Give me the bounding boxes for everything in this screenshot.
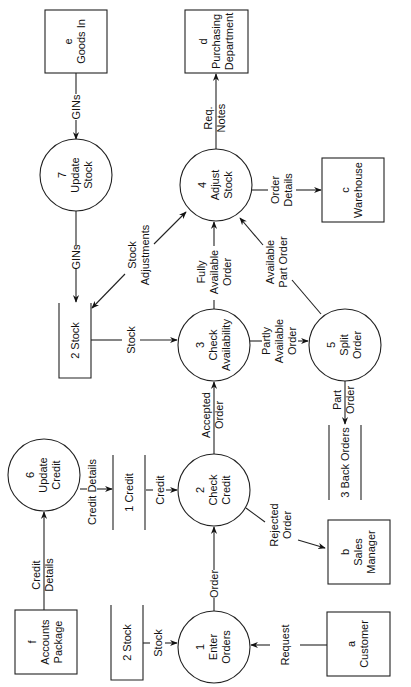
entity-name: Goods In [75, 19, 87, 64]
process-split-order: 5 Split Order [309, 309, 381, 381]
process-name: Check [207, 474, 219, 506]
entity-name: Warehouse [352, 162, 364, 218]
datastore-label: 1 Credit [123, 473, 135, 512]
flow-credit-details-accounts: Credit Details [30, 512, 55, 610]
entity-goods-in: e Goods In [45, 10, 107, 73]
flow-label: GINs [70, 244, 82, 270]
process-number: 7 [56, 172, 68, 178]
flow-gins-in: GINs [70, 73, 82, 139]
flow-label: Fully [195, 260, 207, 284]
entity-customer: a Customer [327, 612, 390, 676]
flow-request: Request [251, 625, 327, 666]
process-name: Order [351, 331, 363, 359]
flow-label: Stock [152, 629, 164, 657]
flow-label: Available [208, 250, 220, 294]
flow-accepted-order: Accepted Order [200, 382, 225, 454]
flow-gins-store: GINs [70, 211, 82, 302]
entity-accounts-package: f Accounts Package [15, 610, 77, 674]
process-number: 1 [194, 644, 206, 650]
process-update-credit: 6 Update Credit [8, 439, 80, 511]
flow-label: Req. [202, 106, 214, 129]
flow-order-details: Order Details [252, 173, 321, 207]
process-number: 5 [325, 342, 337, 348]
datastore-stock-bottom: 2 Stock [111, 605, 143, 680]
entity-letter: c [339, 187, 351, 193]
flow-label: Order [281, 511, 293, 539]
datastore-back-orders: 3 Back Orders [329, 425, 361, 500]
flow-label: Order [221, 258, 233, 286]
process-check-availability: 3 Check Availability [178, 309, 250, 381]
entity-name: Manager [365, 530, 377, 574]
flow-label: Order [208, 570, 220, 598]
flow-label: Request [279, 625, 291, 666]
entity-name: Accounts [39, 619, 51, 665]
flow-stock-to-enter: Stock [143, 629, 177, 657]
flow-label: Order [213, 401, 225, 429]
entity-name: Sales [352, 538, 364, 566]
entity-name: Purchasing [210, 14, 222, 69]
process-name: Orders [220, 630, 232, 664]
flow-partly-available-order: Partly Available Order [250, 319, 308, 363]
flow-label: Order [344, 386, 356, 414]
process-enter-orders: 1 Enter Orders [178, 611, 250, 683]
process-name: Update [37, 457, 49, 492]
flow-label: Order [269, 176, 281, 204]
process-name: Adjust [209, 170, 221, 201]
datastore-label: 3 Back Orders [339, 427, 351, 498]
process-number: 4 [196, 182, 208, 188]
flow-label: Accepted [200, 392, 212, 438]
flow-label: Rejected [268, 503, 280, 546]
flow-label: Available [264, 240, 276, 284]
entity-purchasing-department: d Purchasing Department [185, 10, 248, 73]
flow-available-part-order: Available Part Order [240, 218, 321, 314]
flow-stock-to-check: Stock [91, 326, 177, 354]
flow-label: Partly [260, 326, 272, 355]
entity-warehouse: c Warehouse [322, 158, 384, 222]
entity-letter: d [197, 38, 209, 44]
process-number: 6 [24, 472, 36, 478]
flow-label: Available [273, 319, 285, 363]
flow-label: Details [282, 173, 294, 207]
flow-label: Part [331, 390, 343, 410]
flow-label: Order [286, 327, 298, 355]
process-name: Credit [50, 460, 62, 489]
entity-letter: b [339, 549, 351, 555]
process-name: Check [207, 329, 219, 361]
flow-label: Stock [125, 326, 137, 354]
flow-rejected-order: Rejected Order [246, 503, 325, 548]
flow-part-order: Part Order [331, 381, 356, 424]
process-name: Enter [207, 634, 219, 661]
flow-order: Order [208, 527, 220, 611]
entity-letter: e [62, 38, 74, 44]
entity-sales-manager: b Sales Manager [328, 520, 390, 584]
process-name: Availability [220, 319, 232, 371]
process-name: Stock [222, 171, 234, 199]
process-name: Stock [82, 161, 94, 189]
entity-name: Package [52, 621, 64, 664]
flow-label: Part Order [277, 236, 289, 288]
datastore-credit: 1 Credit [113, 455, 145, 530]
entity-name: Department [223, 13, 235, 70]
process-number: 2 [194, 487, 206, 493]
entity-name: Customer [358, 620, 370, 668]
flow-req-notes: Req. Notes [202, 74, 227, 149]
flow-credit-details-store: Credit Details [80, 458, 112, 525]
process-check-credit: 2 Check Credit [178, 454, 250, 526]
flow-label: GINs [70, 94, 82, 120]
flow-credit: Credit [146, 475, 177, 504]
process-name: Split [338, 334, 350, 355]
process-number: 3 [194, 342, 206, 348]
data-flow-diagram: e Goods In d Purchasing Department c War… [0, 0, 411, 687]
flow-label: Credit [30, 560, 42, 589]
process-update-stock: 7 Update Stock [40, 139, 112, 211]
process-name: Update [69, 157, 81, 192]
flow-fully-available-order: Fully Available Order [195, 222, 233, 309]
datastore-stock-top: 2 Stock [59, 303, 91, 378]
flow-label: Notes [215, 103, 227, 132]
entity-letter: a [345, 640, 357, 647]
flow-stock-adjustments: Stock Adjustments [92, 212, 186, 308]
datastore-label: 2 Stock [121, 624, 133, 661]
flow-label: Credit Details [86, 458, 98, 525]
flow-label: Stock [126, 241, 138, 269]
flow-label: Adjustments [139, 224, 151, 285]
